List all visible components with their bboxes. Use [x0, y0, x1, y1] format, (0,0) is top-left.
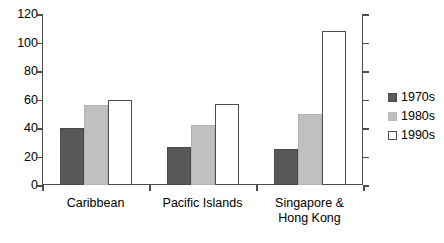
legend: 1970s 1980s 1990s [388, 88, 444, 145]
legend-item-1970s: 1970s [388, 88, 444, 107]
bar [298, 114, 322, 185]
chart-container: 020406080100120 CaribbeanPacific Islands… [0, 0, 444, 243]
y-axis-tick-mark [37, 157, 42, 159]
x-axis-tick-mark [256, 185, 258, 191]
y-axis-tick-mark-right [363, 14, 369, 16]
light-gray-swatch-icon [388, 112, 397, 121]
y-axis-tick-mark [37, 14, 42, 16]
x-axis-category-label: Singapore &Hong Kong [256, 196, 363, 226]
x-axis-category-label-line: Singapore & [256, 196, 363, 211]
y-axis: 020406080100120 [0, 0, 38, 243]
bar-group [256, 14, 363, 185]
y-axis-tick-mark [37, 185, 42, 187]
x-axis-category-label: Pacific Islands [149, 196, 256, 211]
x-axis-category-label-line: Pacific Islands [149, 196, 256, 211]
bar [108, 100, 132, 186]
bar [322, 31, 346, 185]
y-axis-tick-mark [37, 71, 42, 73]
bar [84, 105, 108, 185]
y-axis-tick-mark [37, 128, 42, 130]
x-axis-category-label: Caribbean [42, 196, 149, 211]
x-axis-tick-mark [42, 185, 44, 191]
y-axis-tick-label: 100 [4, 37, 38, 50]
bar [60, 128, 84, 185]
x-axis-tick-mark [149, 185, 151, 191]
y-axis-tick-label: 20 [4, 151, 38, 164]
bar-group [42, 14, 149, 185]
white-swatch-icon [388, 131, 397, 140]
legend-label: 1990s [401, 129, 435, 142]
legend-item-1980s: 1980s [388, 107, 444, 126]
y-axis-tick-mark-right [363, 71, 369, 73]
y-axis-tick-label: 40 [4, 122, 38, 135]
bar [274, 149, 298, 185]
y-axis-tick-mark-right [363, 43, 369, 45]
y-axis-tick-mark-right [363, 185, 369, 187]
y-axis-tick-label: 80 [4, 65, 38, 78]
bars-layer [42, 14, 363, 185]
legend-item-1990s: 1990s [388, 126, 444, 145]
y-axis-tick-mark [37, 100, 42, 102]
bar-group [149, 14, 256, 185]
y-axis-tick-mark-right [363, 100, 369, 102]
legend-label: 1970s [401, 91, 435, 104]
y-axis-tick-label: 120 [4, 8, 38, 21]
bar [191, 125, 215, 185]
x-axis-category-label-line: Hong Kong [256, 211, 363, 226]
y-axis-tick-mark-right [363, 128, 369, 130]
y-axis-tick-mark [37, 43, 42, 45]
bar [167, 147, 191, 185]
y-axis-tick-mark-right [363, 157, 369, 159]
y-axis-tick-label: 0 [4, 179, 38, 192]
bar [215, 104, 239, 185]
y-axis-tick-label: 60 [4, 94, 38, 107]
dark-gray-swatch-icon [388, 93, 397, 102]
legend-label: 1980s [401, 110, 435, 123]
x-axis-category-label-line: Caribbean [42, 196, 149, 211]
